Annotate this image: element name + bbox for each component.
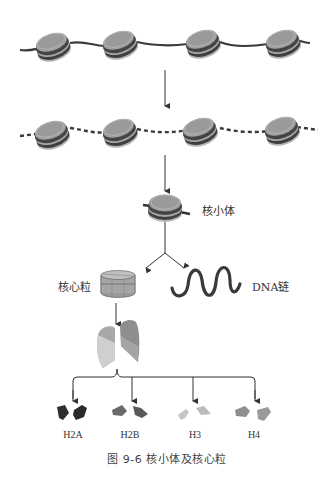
dna-strand-icon <box>172 268 240 296</box>
nucleosome-diagram <box>0 0 334 483</box>
figure-caption: 图 9-6 核小体及核心粒 <box>0 450 334 466</box>
chromatin-row-2 <box>20 113 318 154</box>
chromatin-row-1 <box>20 26 310 66</box>
histone-octamer-icon <box>97 320 139 368</box>
histone-h4-icon <box>235 406 271 421</box>
histone-bracket <box>73 369 255 401</box>
histone-h2b-label: H2B <box>110 429 150 440</box>
dna-strand-label: DNA链 <box>252 278 289 294</box>
histone-h3-icon <box>178 406 211 420</box>
single-nucleosome <box>143 195 190 223</box>
core-particle-icon <box>101 271 135 298</box>
arrow-to-core <box>146 253 165 268</box>
histone-h3-label: H3 <box>175 429 215 440</box>
histone-h2b-icon <box>112 405 148 418</box>
histone-h2a-label: H2A <box>53 429 93 440</box>
nucleosome-label: 核小体 <box>202 202 235 218</box>
histone-h2a-icon <box>57 405 87 420</box>
core-particle-label: 核心粒 <box>58 278 91 294</box>
histone-h4-label: H4 <box>234 429 274 440</box>
arrow-to-dna <box>165 253 184 268</box>
